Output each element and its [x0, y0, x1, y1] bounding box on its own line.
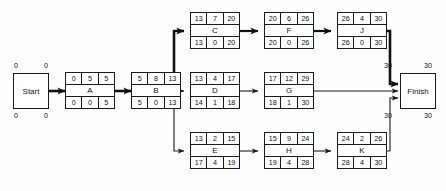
node-d-label: D: [191, 85, 239, 96]
node-b-late-finish: 13: [165, 97, 180, 108]
node-e-duration: 2: [207, 133, 223, 144]
node-h-label: H: [265, 145, 313, 156]
node-h-top-row: 15 9 24: [265, 133, 313, 144]
node-c-duration: 7: [207, 13, 223, 24]
node-e-late-finish: 19: [224, 157, 239, 168]
node-a-late-start: 0: [66, 97, 82, 108]
node-g[interactable]: 17 12 29 G 18 1 30: [264, 72, 314, 109]
node-a-early-start: 0: [66, 73, 82, 84]
node-e-label: E: [191, 145, 239, 156]
node-g-late-start: 18: [265, 97, 281, 108]
node-c-slack: 0: [207, 37, 223, 48]
node-j-late-finish: 30: [371, 37, 386, 48]
node-h-early-finish: 24: [298, 133, 313, 144]
node-j-top-row: 26 4 30: [338, 13, 386, 24]
node-c-label: C: [191, 25, 239, 36]
node-h-early-start: 15: [265, 133, 281, 144]
finish-corner-top-left: 30: [384, 61, 392, 70]
node-h-duration: 9: [281, 133, 297, 144]
node-b-top-row: 5 8 13: [132, 73, 180, 84]
node-f-early-finish: 26: [298, 13, 313, 24]
node-g-duration: 12: [281, 73, 297, 84]
node-j-label-row: J: [338, 24, 386, 37]
node-a-duration: 5: [82, 73, 98, 84]
node-g-top-row: 17 12 29: [265, 73, 313, 84]
node-d-bottom-row: 14 1 18: [191, 97, 239, 108]
node-h-bottom-row: 19 4 28: [265, 157, 313, 168]
node-c-top-row: 13 7 20: [191, 13, 239, 24]
node-b-label: B: [132, 85, 180, 96]
node-k-early-start: 24: [338, 133, 354, 144]
node-b-label-row: B: [132, 84, 180, 97]
node-g-late-finish: 30: [298, 97, 313, 108]
node-k-label: K: [338, 145, 386, 156]
node-a-slack: 0: [82, 97, 98, 108]
node-b-late-start: 5: [132, 97, 148, 108]
terminal-start[interactable]: Start: [13, 73, 49, 109]
node-j-late-start: 26: [338, 37, 354, 48]
node-d-label-row: D: [191, 84, 239, 97]
node-d-top-row: 13 4 17: [191, 73, 239, 84]
node-d-early-start: 13: [191, 73, 207, 84]
node-e-late-start: 17: [191, 157, 207, 168]
node-k-duration: 2: [354, 133, 370, 144]
terminal-finish-label: Finish: [407, 87, 428, 96]
node-j-duration: 4: [354, 13, 370, 24]
node-e-early-start: 13: [191, 133, 207, 144]
node-c-early-start: 13: [191, 13, 207, 24]
node-g-early-start: 17: [265, 73, 281, 84]
node-k-top-row: 24 2 26: [338, 133, 386, 144]
node-k-bottom-row: 28 4 30: [338, 157, 386, 168]
node-d[interactable]: 13 4 17 D 14 1 18: [190, 72, 240, 109]
finish-corner-bottom-right: 30: [424, 111, 432, 120]
node-d-late-start: 14: [191, 97, 207, 108]
node-f-label: F: [265, 25, 313, 36]
node-f[interactable]: 20 6 26 F 20 0 26: [264, 12, 314, 49]
node-c-label-row: C: [191, 24, 239, 37]
node-a-early-finish: 5: [99, 73, 114, 84]
network-diagram-canvas: Start 0 0 0 0 0 5 5 A 0 0 5 5 8 13 B 5: [0, 0, 446, 191]
node-h[interactable]: 15 9 24 H 19 4 28: [264, 132, 314, 169]
node-j-bottom-row: 26 0 30: [338, 37, 386, 48]
node-b-duration: 8: [148, 73, 164, 84]
node-k[interactable]: 24 2 26 K 28 4 30: [337, 132, 387, 169]
node-e-top-row: 13 2 15: [191, 133, 239, 144]
node-h-late-finish: 28: [298, 157, 313, 168]
node-j[interactable]: 26 4 30 J 26 0 30: [337, 12, 387, 49]
node-a-label: A: [66, 85, 114, 96]
start-corner-bottom-left: 0: [14, 111, 18, 120]
node-g-slack: 1: [281, 97, 297, 108]
node-a-late-finish: 5: [99, 97, 114, 108]
node-b-bottom-row: 5 0 13: [132, 97, 180, 108]
node-k-label-row: K: [338, 144, 386, 157]
node-k-slack: 4: [354, 157, 370, 168]
node-f-label-row: F: [265, 24, 313, 37]
node-f-late-finish: 26: [298, 37, 313, 48]
node-f-top-row: 20 6 26: [265, 13, 313, 24]
node-a-label-row: A: [66, 84, 114, 97]
node-k-late-finish: 30: [371, 157, 386, 168]
terminal-finish[interactable]: Finish: [400, 73, 436, 109]
node-g-label: G: [265, 85, 313, 96]
node-b-early-finish: 13: [165, 73, 180, 84]
node-j-slack: 0: [354, 37, 370, 48]
node-e-bottom-row: 17 4 19: [191, 157, 239, 168]
node-c-early-finish: 20: [224, 13, 239, 24]
finish-corner-top-right: 30: [424, 61, 432, 70]
node-e-slack: 4: [207, 157, 223, 168]
node-c-late-start: 13: [191, 37, 207, 48]
node-k-late-start: 28: [338, 157, 354, 168]
node-g-label-row: G: [265, 84, 313, 97]
node-b[interactable]: 5 8 13 B 5 0 13: [131, 72, 181, 109]
node-a[interactable]: 0 5 5 A 0 0 5: [65, 72, 115, 109]
node-h-slack: 4: [281, 157, 297, 168]
node-b-early-start: 5: [132, 73, 148, 84]
node-b-slack: 0: [148, 97, 164, 108]
node-j-label: J: [338, 25, 386, 36]
node-a-bottom-row: 0 0 5: [66, 97, 114, 108]
node-c[interactable]: 13 7 20 C 13 0 20: [190, 12, 240, 49]
node-h-label-row: H: [265, 144, 313, 157]
terminal-start-label: Start: [23, 87, 40, 96]
node-e[interactable]: 13 2 15 E 17 4 19: [190, 132, 240, 169]
node-e-early-finish: 15: [224, 133, 239, 144]
